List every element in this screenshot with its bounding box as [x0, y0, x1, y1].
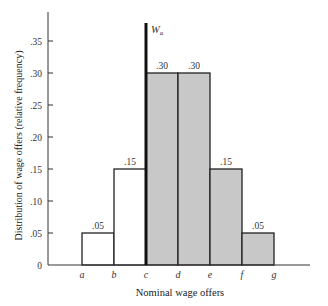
bar-value-label: .15 — [124, 157, 136, 167]
y-tick-label: .30 — [30, 69, 42, 79]
y-tick-label: 0 — [37, 261, 42, 271]
wa-annotation: Wa — [151, 24, 164, 37]
y-tick-label: .15 — [30, 165, 42, 175]
x-axis-label: Nominal wage offers — [100, 287, 260, 298]
y-tick-label: .25 — [30, 101, 42, 111]
histogram-bar — [178, 73, 210, 265]
y-tick-label: .20 — [30, 133, 42, 143]
x-tick-label: c — [144, 269, 149, 280]
y-tick-label: .35 — [30, 37, 42, 47]
y-tick-label: .10 — [30, 197, 42, 207]
x-tick-label: f — [241, 269, 245, 280]
bar-value-label: .05 — [92, 221, 104, 231]
histogram-bar — [242, 233, 274, 265]
x-tick-label: b — [112, 269, 117, 280]
bar-value-label: .30 — [156, 61, 168, 71]
x-tick-label: g — [272, 269, 277, 280]
y-tick-label: .05 — [30, 229, 42, 239]
x-tick-label: e — [208, 269, 213, 280]
bar-value-label: .05 — [252, 221, 264, 231]
histogram-bar — [210, 169, 242, 265]
histogram-bar — [114, 169, 146, 265]
chart-canvas: .05.15.30.30.15.050.05.10.15.20.25.30.35… — [0, 0, 328, 306]
x-tick-label: d — [176, 269, 182, 280]
y-axis-label: Distribution of wage offers (relative fr… — [13, 71, 24, 241]
x-tick-label: a — [80, 269, 85, 280]
histogram-chart: .05.15.30.30.15.050.05.10.15.20.25.30.35… — [0, 0, 328, 306]
bar-value-label: .30 — [188, 61, 200, 71]
histogram-bar — [82, 233, 114, 265]
histogram-bar — [146, 73, 178, 265]
bar-value-label: .15 — [220, 157, 232, 167]
